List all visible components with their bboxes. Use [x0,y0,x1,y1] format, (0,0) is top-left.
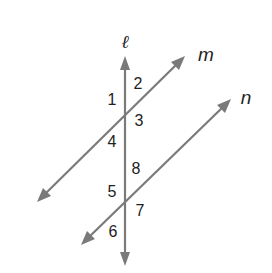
parallel-lines-transversal-diagram: ℓ m n 1 2 3 4 5 6 7 8 [0,0,272,273]
line-label-n: n [241,87,252,108]
angle-label-8: 8 [132,160,141,177]
angle-label-2: 2 [134,75,143,92]
arrow-up-icon [120,56,130,70]
angle-label-1: 1 [108,91,117,108]
angle-label-3: 3 [135,112,144,129]
line-label-l: ℓ [121,31,129,52]
parallel-line-m [37,56,185,202]
angle-label-7: 7 [136,202,145,219]
arrow-down-icon [120,252,130,266]
parallel-line-n [81,99,231,245]
line-label-m: m [198,44,214,65]
transversal-line-l [120,56,130,266]
angle-label-4: 4 [108,133,117,150]
angle-label-5: 5 [108,183,117,200]
angle-label-6: 6 [109,223,118,240]
